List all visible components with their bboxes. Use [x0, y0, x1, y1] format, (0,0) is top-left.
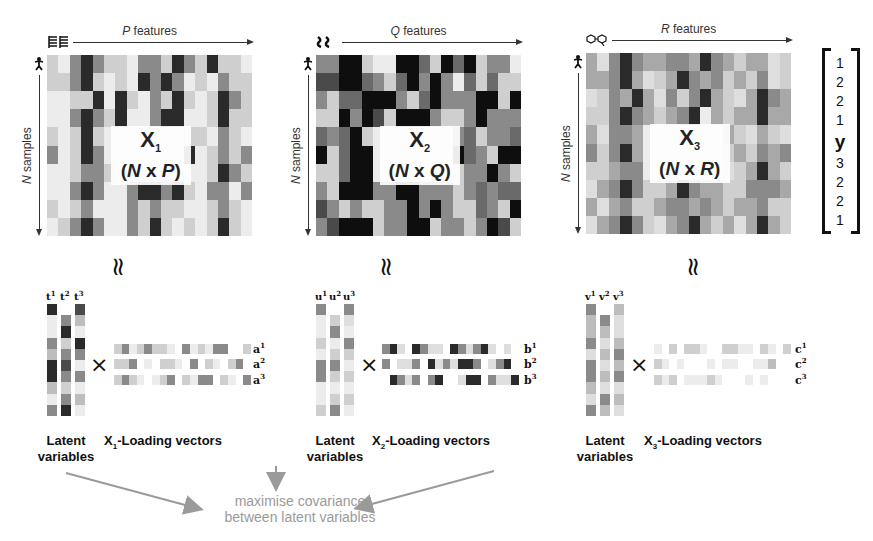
- covariance-line-2: between latent variables: [200, 509, 400, 525]
- covariance-arrows: [0, 0, 873, 541]
- covariance-line-1: maximise covariance: [200, 493, 400, 509]
- covariance-caption: maximise covariance between latent varia…: [200, 493, 400, 525]
- arrow-left: [66, 473, 200, 509]
